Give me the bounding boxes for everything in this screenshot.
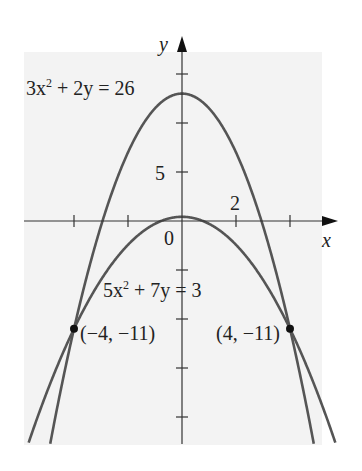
point-label-left: (−4, −11) (80, 322, 155, 345)
y-axis-label: y (157, 33, 168, 56)
x-tick-label-2: 2 (230, 192, 240, 214)
y-axis-arrow-icon (177, 36, 187, 52)
intersection-point (70, 325, 78, 333)
equation-label-1: 3x2 + 2y = 26 (26, 76, 135, 100)
chart: 3x2 + 2y = 26 5x2 + 7y = 3 (−4, −11) (4,… (0, 0, 362, 471)
x-axis-label: x (321, 229, 331, 251)
y-tick-label-5: 5 (155, 162, 165, 184)
origin-label: 0 (164, 227, 174, 249)
equation-label-2: 5x2 + 7y = 3 (103, 278, 202, 302)
x-axis-arrow-icon (322, 216, 338, 226)
intersection-point (286, 325, 294, 333)
point-label-right: (4, −11) (216, 322, 280, 345)
